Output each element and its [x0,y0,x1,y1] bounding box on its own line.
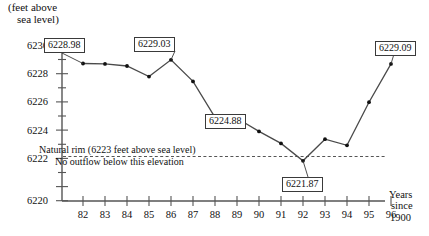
x-tick-label-91: 91 [270,209,292,220]
x-tick-label-90: 90 [248,209,270,220]
y-tick-label-6226: 6226 [14,96,48,107]
x-tick-label-92: 92 [292,209,314,220]
leader-line-6228-98 [62,53,83,64]
data-point-94 [345,143,349,147]
x-axis-title: Yearssince1900 [388,189,429,223]
x-axis-title-line-1: Years [388,189,429,200]
data-point-87 [191,80,195,84]
leader-line-6221-87 [303,161,308,177]
x-axis-title-line-2: since [388,200,429,211]
y-tick-label-6220: 6220 [14,195,48,206]
x-tick-label-86: 86 [160,209,182,220]
x-tick-label-84: 84 [116,209,138,220]
x-axis-title-line-3: 1900 [388,212,429,223]
x-tick-label-89: 89 [226,209,248,220]
y-tick-label-6224: 6224 [14,125,48,136]
chart-figure: (feet abovesea level) [0,0,429,236]
data-point-85 [147,75,151,79]
data-label-6224-88: 6224.88 [205,114,246,129]
data-label-6221-87: 6221.87 [282,177,323,192]
y-tick-label-6228: 6228 [14,68,48,79]
y-tick-label-6230: 6230 [14,40,48,51]
x-tick-label-93: 93 [314,209,336,220]
data-point-84 [125,64,129,68]
x-tick-label-88: 88 [204,209,226,220]
x-tick-label-83: 83 [94,209,116,220]
data-label-6229-09: 6229.09 [375,41,416,56]
reference-line-note-primary: Natural rim (6223 feet above sea level) [39,145,196,156]
data-point-90 [257,130,261,134]
x-tick-label-82: 82 [72,209,94,220]
data-point-83 [103,62,107,66]
leader-line-6229-03 [171,51,175,60]
x-tick-label-94: 94 [336,209,358,220]
x-tick-label-87: 87 [182,209,204,220]
x-tick-label-95: 95 [358,209,380,220]
data-point-91 [279,142,283,146]
data-point-95 [367,100,371,104]
data-label-6228-98: 6228.98 [44,38,85,53]
data-point-93 [323,137,327,141]
x-tick-label-85: 85 [138,209,160,220]
reference-line-note-secondary: No outflow below this elevation [55,157,184,168]
data-label-6229-03: 6229.03 [134,37,175,52]
